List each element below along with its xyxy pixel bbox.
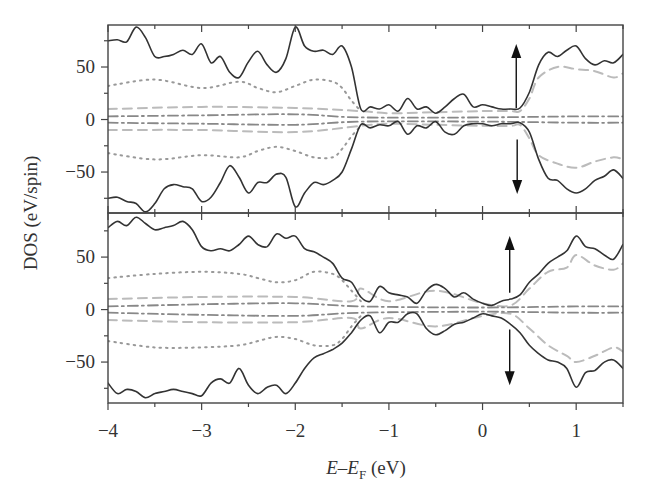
axes: 500−50500−50−4−3−2−101 xyxy=(65,25,623,441)
series-component-dashdot-up xyxy=(108,114,623,117)
spin-down-arrow-icon xyxy=(512,139,522,194)
x-axis-title-sub: F xyxy=(359,467,366,482)
series-total-down xyxy=(108,312,623,398)
y-tick-label: −50 xyxy=(65,161,95,182)
panel-top xyxy=(108,27,623,212)
x-tick-label: −3 xyxy=(192,420,212,441)
y-tick-label: 0 xyxy=(86,299,96,320)
series-component-dashed-up xyxy=(108,255,623,306)
y-tick-label: 50 xyxy=(76,246,95,267)
x-axis-title-ef: E xyxy=(346,457,359,478)
y-tick-label: 50 xyxy=(76,56,95,77)
panel-bottom xyxy=(108,217,623,398)
x-axis-title-dash: – xyxy=(337,457,348,478)
x-axis-title-e: E xyxy=(325,457,338,478)
x-tick-label: −2 xyxy=(285,420,305,441)
x-axis-title-unit: (eV) xyxy=(366,457,406,479)
x-axis-title: E–EF (eV) xyxy=(325,457,406,482)
x-tick-label: 1 xyxy=(571,420,581,441)
y-axis-title: DOS (eV/spin) xyxy=(20,156,42,271)
spin-down-arrow-icon xyxy=(505,330,515,386)
series-component-dashed-down xyxy=(108,313,623,362)
series-component-dashed-up xyxy=(108,67,623,114)
y-tick-label: 0 xyxy=(86,109,96,130)
y-tick-label: −50 xyxy=(65,351,95,372)
series-total-up xyxy=(108,217,623,305)
spin-up-arrow-icon xyxy=(505,236,515,293)
series-component-dashed-down xyxy=(108,124,623,168)
series-total-up xyxy=(108,27,623,113)
series-total-down xyxy=(108,121,623,212)
series-component-dashdot-up xyxy=(108,303,623,307)
x-tick-label: 0 xyxy=(478,420,488,441)
dos-chart: 500−50500−50−4−3−2−101 DOS (eV/spin) E–E… xyxy=(0,0,655,495)
x-tick-label: −4 xyxy=(98,420,119,441)
panel-frame-bottom xyxy=(108,213,623,403)
spin-up-arrow-icon xyxy=(511,44,521,108)
x-tick-label: −1 xyxy=(379,420,399,441)
